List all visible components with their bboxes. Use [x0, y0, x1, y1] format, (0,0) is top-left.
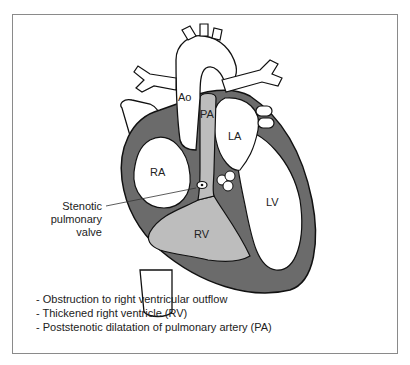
label-rv: RV [194, 228, 209, 240]
callout-line3: valve [40, 226, 102, 239]
label-la: LA [228, 130, 241, 142]
callout-line1: Stenotic [40, 200, 102, 213]
note-item: - Poststenotic dilatation of pulmonary a… [36, 320, 272, 334]
label-pa: PA [200, 108, 214, 120]
note-item: - Thickened right ventricle (RV) [36, 306, 272, 320]
note-item: - Obstruction to right ventricular outfl… [36, 292, 272, 306]
right-pulmonary-artery [134, 66, 176, 92]
label-ra: RA [150, 166, 165, 178]
callout-line2: pulmonary [40, 213, 102, 226]
label-ao: Ao [178, 91, 191, 103]
stenotic-valve-callout: Stenotic pulmonary valve [40, 200, 102, 239]
label-lv: LV [266, 196, 279, 208]
notes-list: - Obstruction to right ventricular outfl… [36, 292, 272, 334]
